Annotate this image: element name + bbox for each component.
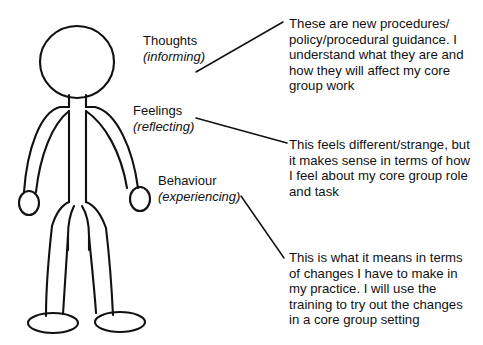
crotch-shape — [68, 206, 89, 250]
hip-left-shape — [52, 202, 69, 226]
note-behaviour-line-1: This is what it means in terms — [289, 250, 479, 266]
note-thoughts: These are new procedures/ policy/procedu… — [289, 16, 479, 94]
right-leg-outer-shape — [106, 228, 113, 315]
note-behaviour: This is what it means in terms of change… — [289, 250, 479, 328]
torso-left-shape — [24, 107, 69, 192]
note-thoughts-line-1: These are new procedures/ — [289, 16, 479, 32]
feelings-connector — [196, 118, 287, 143]
thoughts-connector — [196, 22, 283, 72]
label-behaviour-title: Behaviour — [158, 173, 240, 189]
head-shape — [40, 26, 114, 98]
note-feelings-line-3: I feel about my core group role — [289, 168, 479, 184]
right-hand-shape — [130, 187, 150, 211]
behaviour-connector — [241, 196, 284, 258]
note-behaviour-line-3: my practice. I will use the — [289, 281, 479, 297]
left-hand-shape — [19, 191, 39, 215]
note-behaviour-line-5: in a core group setting — [289, 312, 479, 328]
note-behaviour-line-2: of changes I have to make in — [289, 266, 479, 282]
diagram-canvas: Thoughts (informing) Feelings (reflectin… — [0, 0, 483, 345]
label-feelings-title: Feelings — [133, 103, 194, 119]
note-thoughts-line-3: understand what they are and — [289, 47, 479, 63]
right-leg-inner-shape — [89, 236, 96, 313]
label-feelings-subtitle: (reflecting) — [133, 119, 194, 135]
torso-right-shape — [86, 107, 138, 188]
right-arm-inner-shape — [86, 111, 127, 188]
label-behaviour-subtitle: (experiencing) — [158, 189, 240, 205]
right-foot-shape — [95, 312, 145, 332]
left-foot-shape — [28, 313, 78, 333]
note-feelings-line-4: and task — [289, 184, 479, 200]
label-feelings: Feelings (reflecting) — [133, 103, 194, 134]
note-thoughts-line-2: policy/procedural guidance. I — [289, 32, 479, 48]
label-behaviour: Behaviour (experiencing) — [158, 173, 240, 204]
label-thoughts-subtitle: (informing) — [143, 49, 205, 65]
label-thoughts-title: Thoughts — [143, 33, 205, 49]
note-thoughts-line-4: how they will affect my core — [289, 63, 479, 79]
left-leg-inner-shape — [63, 236, 68, 314]
label-thoughts: Thoughts (informing) — [143, 33, 205, 64]
note-behaviour-line-4: training to try out the changes — [289, 297, 479, 313]
note-feelings-line-2: it makes sense in terms of how — [289, 153, 479, 169]
note-feelings: This feels different/strange, but it mak… — [289, 137, 479, 199]
left-leg-outer-shape — [46, 226, 52, 316]
note-feelings-line-1: This feels different/strange, but — [289, 137, 479, 153]
note-thoughts-line-5: group work — [289, 78, 479, 94]
